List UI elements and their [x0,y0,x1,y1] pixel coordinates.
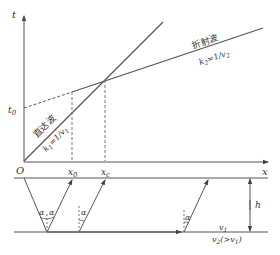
xc-label: xc [101,167,110,179]
incident-ray [24,178,47,232]
reflected-ray [47,180,72,232]
angle-arc-2 [79,220,84,221]
x0-label: x0 [68,167,78,179]
direct-wave-line [24,22,163,161]
refracted-ray-xc [79,180,105,232]
t0-dashed-line [24,92,72,108]
x-axis-label: x [262,166,268,177]
v1-label: v1 [219,223,227,233]
angle-label-1b: α [49,208,55,217]
emerging-ray [184,180,208,232]
t-axis-label: t [12,9,17,20]
v2-label: v2(>v1) [212,235,242,245]
thickness-label: h [255,200,261,210]
angle-label-2: α [81,208,87,217]
refracted-wave-slope-label: k2=1/v2 [198,48,231,68]
t0-label: t0 [8,105,17,117]
angle-label-1a: α [39,208,45,217]
travel-time-plot: t x O t0 x0 xc 直达波 k1=1/v1 折射波 k2=1/v2 [8,9,268,179]
refracted-wave-line [72,28,263,92]
angle-label-3: α [185,213,191,222]
diagram-canvas: t x O t0 x0 xc 直达波 k1=1/v1 折射波 k2=1/v2 [0,0,280,255]
ray-path-model: α α α α h v1 v2(>v1) [14,178,268,245]
origin-label: O [16,165,24,176]
